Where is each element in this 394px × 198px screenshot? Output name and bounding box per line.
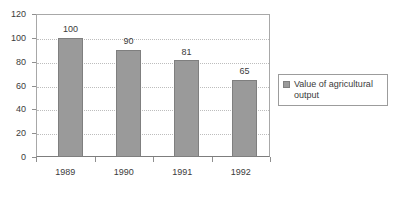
bar-1991[interactable] xyxy=(174,60,199,157)
legend-swatch-icon xyxy=(283,81,290,88)
chart-legend: Value of agricultural output xyxy=(278,74,388,106)
y-tick-label-80: 80 xyxy=(16,58,26,67)
bar-chart: 120 100 80 60 40 20 0 100 90 81 65 1989 … xyxy=(0,0,394,198)
x-tick-label-1991: 1991 xyxy=(157,167,207,177)
bar-value-1992: 65 xyxy=(225,67,265,76)
y-tick-label-40: 40 xyxy=(16,105,26,114)
x-tick-mark-0 xyxy=(36,157,37,162)
bar-value-1989: 100 xyxy=(51,25,91,34)
y-tick-label-0: 0 xyxy=(21,153,26,162)
x-tick-mark-2 xyxy=(153,157,154,162)
bars-layer xyxy=(36,14,270,157)
legend-label-value-of-agricultural-output: Value of agricultural output xyxy=(294,79,383,101)
y-tick-label-60: 60 xyxy=(16,82,26,91)
bar-value-1990: 90 xyxy=(109,37,149,46)
y-tick-label-100: 100 xyxy=(11,34,26,43)
x-tick-label-1992: 1992 xyxy=(216,167,266,177)
bar-1992[interactable] xyxy=(232,80,257,157)
bar-value-1991: 81 xyxy=(167,48,207,57)
y-tick-label-20: 20 xyxy=(16,129,26,138)
x-tick-label-1990: 1990 xyxy=(99,167,149,177)
x-tick-label-1989: 1989 xyxy=(40,167,90,177)
x-tick-mark-3 xyxy=(212,157,213,162)
bar-1990[interactable] xyxy=(116,50,141,157)
bar-1989[interactable] xyxy=(58,38,83,157)
x-tick-mark-4 xyxy=(270,157,271,162)
x-tick-mark-1 xyxy=(95,157,96,162)
y-tick-label-120: 120 xyxy=(11,10,26,19)
y-axis-labels: 120 100 80 60 40 20 0 xyxy=(0,0,32,198)
